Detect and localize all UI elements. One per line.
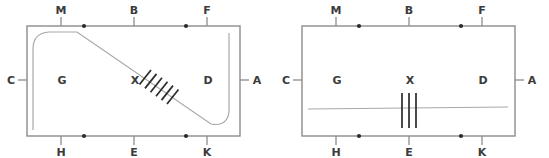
dot-top-2 <box>459 24 463 28</box>
dot-top-1 <box>357 24 361 28</box>
label-C: C <box>7 74 15 87</box>
left-hatch-group <box>140 70 179 104</box>
dot-top-1 <box>82 24 86 28</box>
right-diagram: M B F H E K C A G X D <box>275 0 549 158</box>
region-label-G: G <box>57 74 66 87</box>
label-A: A <box>528 74 537 87</box>
label-B: B <box>405 4 413 17</box>
label-K: K <box>203 146 212 158</box>
region-label-G: G <box>332 74 341 87</box>
label-B: B <box>130 4 138 17</box>
label-H: H <box>56 146 65 158</box>
dot-top-2 <box>184 24 188 28</box>
label-M: M <box>56 4 67 17</box>
region-label-X: X <box>406 74 415 87</box>
label-F: F <box>203 4 211 17</box>
label-H: H <box>331 146 340 158</box>
left-diagram: M B F H E K C A G X D <box>0 0 275 158</box>
label-E: E <box>405 146 413 158</box>
right-interior-line <box>308 107 508 109</box>
dot-bottom-2 <box>184 134 188 138</box>
label-E: E <box>130 146 138 158</box>
label-M: M <box>331 4 342 17</box>
label-A: A <box>253 74 262 87</box>
label-K: K <box>478 146 487 158</box>
label-F: F <box>478 4 486 17</box>
dot-bottom-2 <box>459 134 463 138</box>
label-C: C <box>282 74 290 87</box>
dot-bottom-1 <box>357 134 361 138</box>
diagram-canvas: M B F H E K C A G X D <box>0 0 549 158</box>
region-label-D: D <box>478 74 487 87</box>
right-hatch-group <box>402 93 416 128</box>
dot-bottom-1 <box>82 134 86 138</box>
region-label-X: X <box>131 74 140 87</box>
region-label-D: D <box>203 74 212 87</box>
